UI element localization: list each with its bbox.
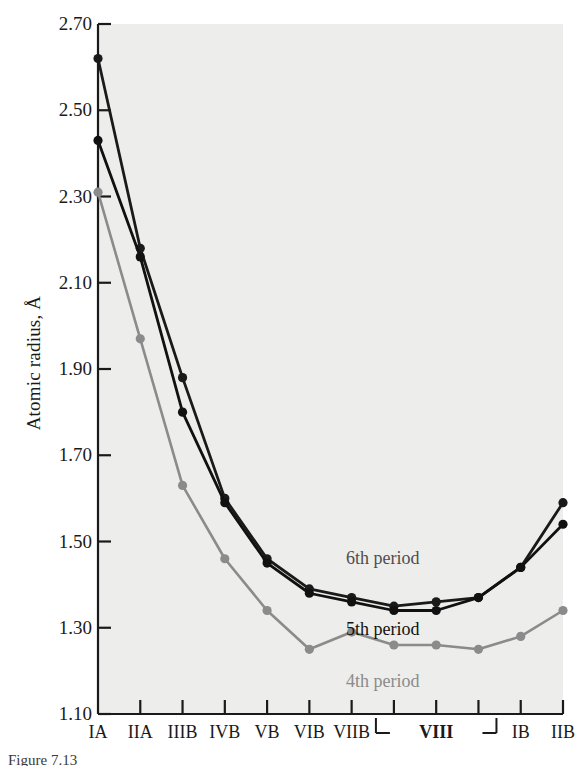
x-tick-label: IIIB <box>168 722 198 743</box>
x-tick-label: VIIB <box>333 722 370 743</box>
x-tick-label: VIII <box>419 722 453 743</box>
data-point <box>178 408 187 417</box>
data-point <box>220 554 229 563</box>
x-axis-ticks <box>140 700 563 714</box>
data-point <box>305 645 314 654</box>
data-point <box>432 597 441 606</box>
x-tick-label: VIB <box>294 722 325 743</box>
y-axis-ticks <box>98 24 111 714</box>
data-point <box>93 136 102 145</box>
data-point <box>93 54 102 63</box>
axes <box>98 24 563 714</box>
data-point <box>347 597 356 606</box>
data-point <box>558 498 567 507</box>
data-point <box>432 606 441 615</box>
data-point <box>136 252 145 261</box>
data-point <box>93 188 102 197</box>
series-label: 6th period <box>346 548 420 569</box>
x-tick-label: IA <box>89 722 108 743</box>
chart-canvas <box>0 0 578 766</box>
x-tick-label: IIA <box>128 722 153 743</box>
data-point <box>178 481 187 490</box>
data-point <box>220 498 229 507</box>
series-label: 4th period <box>346 671 420 692</box>
data-series-layer <box>93 54 567 654</box>
figure-atomic-radius: Atomic radius, Å 2.702.502.302.101.901.7… <box>0 0 578 766</box>
data-point <box>474 593 483 602</box>
data-point <box>136 334 145 343</box>
data-point <box>262 606 271 615</box>
data-point <box>432 640 441 649</box>
series-line <box>98 192 563 649</box>
data-point <box>516 563 525 572</box>
x-tick-label: IIB <box>551 722 575 743</box>
x-tick-label: VB <box>255 722 280 743</box>
series-line <box>98 140 563 610</box>
data-point <box>389 640 398 649</box>
data-point <box>389 606 398 615</box>
data-point <box>474 645 483 654</box>
data-point <box>558 520 567 529</box>
data-point <box>262 558 271 567</box>
data-point <box>305 589 314 598</box>
data-point <box>558 606 567 615</box>
x-tick-label: IB <box>512 722 530 743</box>
series-line <box>98 59 563 607</box>
series-label: 5th period <box>346 619 420 640</box>
data-point <box>178 373 187 382</box>
x-tick-label: IVB <box>209 722 240 743</box>
figure-caption: Figure 7.13 <box>8 752 77 766</box>
data-point <box>516 632 525 641</box>
